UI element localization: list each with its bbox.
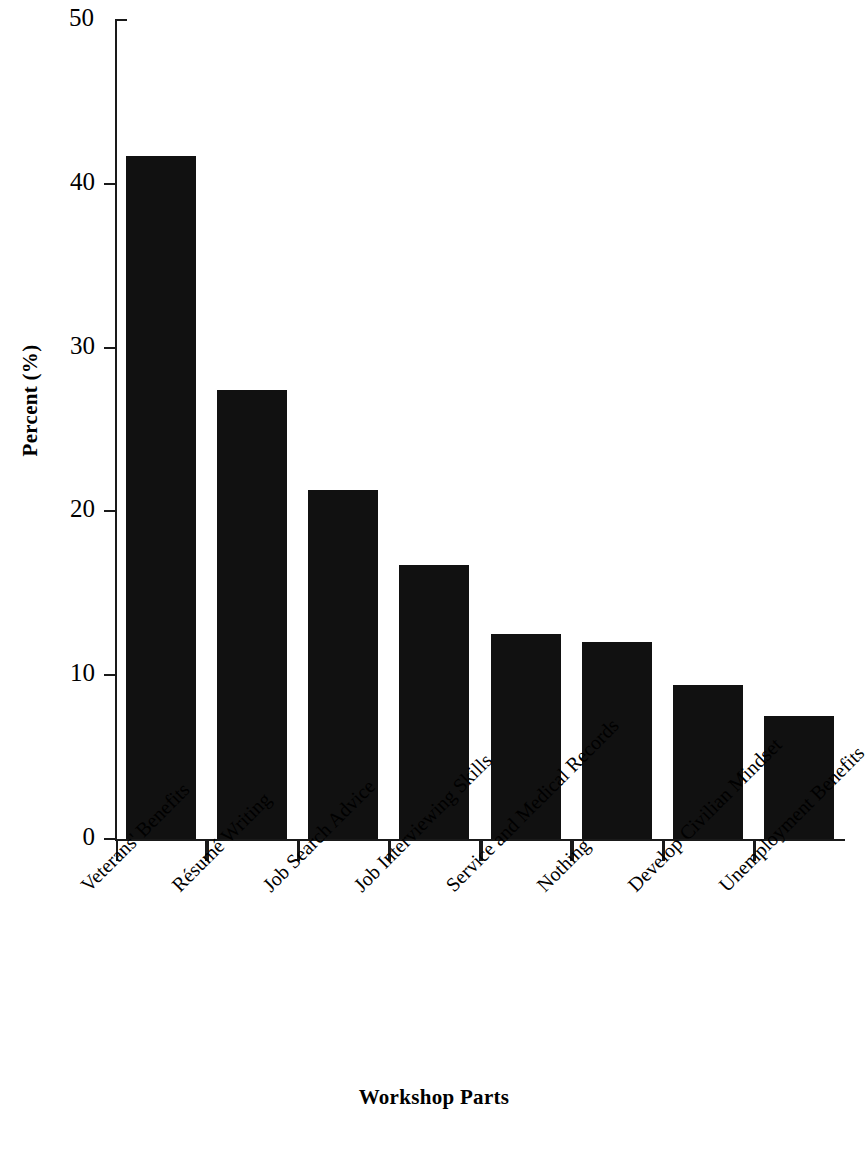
plot-area: 50403020100 [115, 20, 845, 841]
y-axis-title: Percent (%) [18, 301, 43, 501]
y-axis-tick: 30 [104, 347, 116, 349]
x-axis-title: Workshop Parts [0, 1085, 868, 1110]
y-axis-tick: 20 [104, 510, 116, 512]
y-axis-tick-label: 40 [25, 168, 95, 196]
y-axis-tick-label: 20 [25, 495, 95, 523]
y-axis-tick: 10 [104, 674, 116, 676]
y-axis-tick-label: 30 [25, 332, 95, 360]
y-axis-tick-label: 50 [24, 4, 94, 32]
y-axis-tick: 0 [104, 838, 116, 840]
x-axis-category-label: Nothing [532, 834, 594, 896]
y-axis-tick: 40 [104, 183, 116, 185]
y-axis-tick: 50 [115, 19, 127, 21]
bar [126, 156, 196, 839]
y-axis-tick-label: 10 [25, 659, 95, 687]
y-axis-line [115, 20, 117, 841]
bar-chart: Percent (%) 50403020100 Veterans' Benefi… [0, 0, 868, 1153]
bar [217, 390, 287, 839]
y-axis-tick-label: 0 [25, 823, 95, 851]
